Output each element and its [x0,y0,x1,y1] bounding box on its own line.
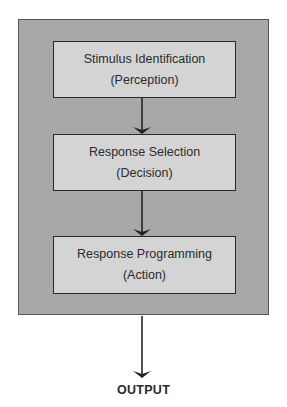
output-label: OUTPUT [0,383,287,397]
flow-arrows [0,0,287,407]
